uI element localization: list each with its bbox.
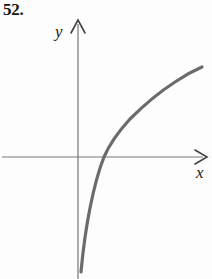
x-axis-label: x xyxy=(195,163,204,182)
figure-page: 52. y x xyxy=(0,0,212,279)
graph-figure: y x xyxy=(0,0,212,279)
curve-path xyxy=(81,67,202,272)
y-axis-label: y xyxy=(53,22,63,41)
